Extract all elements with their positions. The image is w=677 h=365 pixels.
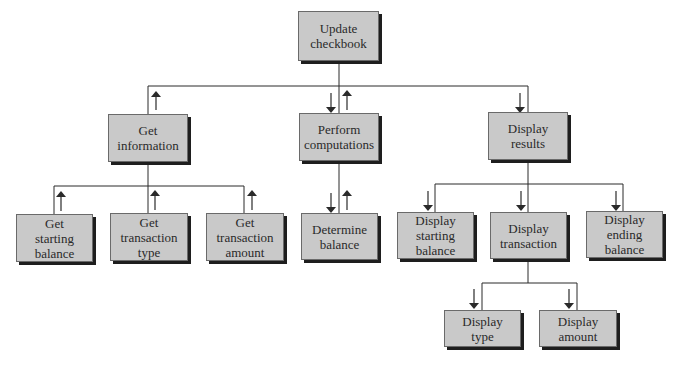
node-display-starting-balance: Display starting balance [397,212,474,259]
connector-line [482,283,577,310]
node-get-transaction-type: Get transaction type [110,213,188,261]
node-get-information: Get information [108,114,188,162]
node-display-results: Display results [488,112,568,160]
node-update-checkbook: Update checkbook [298,11,379,61]
connector-line [54,186,244,214]
node-display-transaction: Display transaction [490,212,567,259]
node-display-type: Display type [444,310,521,347]
node-perform-computations: Perform computations [299,113,379,161]
connector-line [435,184,623,212]
node-display-amount: Display amount [539,310,617,347]
node-determine-balance: Determine balance [301,213,378,260]
node-get-starting-balance: Get starting balance [16,214,93,262]
node-display-ending-balance: Display ending balance [586,211,663,258]
connector-line [148,86,528,114]
structure-chart: Update checkbook Get information Perform… [0,0,677,365]
node-get-transaction-amount: Get transaction amount [206,213,284,261]
